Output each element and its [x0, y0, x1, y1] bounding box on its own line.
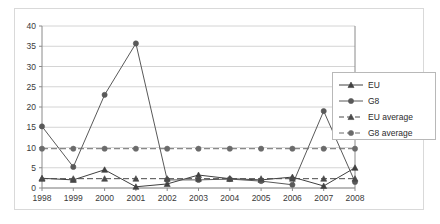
x-tick-label: 2001: [126, 193, 145, 203]
legend-item-label: EU average: [368, 112, 413, 122]
x-tick-label: 2007: [314, 193, 333, 203]
y-tick-label: 40: [27, 21, 37, 31]
x-tick-label: 2003: [189, 193, 208, 203]
y-tick-label: 30: [27, 62, 37, 72]
legend-content: EUG8EU averageG8 average: [333, 73, 435, 139]
line-chart: 0510152025303540 19981999200020012002200…: [0, 0, 440, 224]
x-tick-label: 2008: [346, 193, 365, 203]
x-tick-label: 1998: [33, 193, 52, 203]
y-tick-label: 0: [31, 183, 36, 193]
y-tick-label: 25: [27, 82, 37, 92]
gridlines: [42, 26, 355, 188]
y-tick-label: 5: [31, 163, 36, 173]
legend-item-label: G8 average: [368, 128, 413, 138]
legend-item-label: G8: [368, 96, 380, 106]
y-tick-label: 20: [27, 102, 37, 112]
x-tick-label: 2002: [158, 193, 177, 203]
y-axis-tick-labels: 0510152025303540: [27, 21, 42, 193]
x-tick-label: 2000: [95, 193, 114, 203]
x-tick-label: 1999: [64, 193, 83, 203]
series-g8: [39, 41, 357, 188]
y-tick-label: 15: [27, 122, 37, 132]
chart-legend: EUG8EU averageG8 average: [332, 72, 436, 140]
y-tick-label: 10: [27, 143, 37, 153]
legend-item-label: EU: [368, 80, 380, 90]
x-axis-tick-labels: 1998199920002001200220032004200520062007…: [33, 188, 365, 203]
y-tick-label: 35: [27, 41, 37, 51]
x-tick-label: 2004: [220, 193, 239, 203]
x-tick-label: 2005: [252, 193, 271, 203]
series-eu-average: [39, 176, 358, 182]
series-g8-average: [39, 146, 357, 151]
series-layer: [39, 41, 358, 190]
x-tick-label: 2006: [283, 193, 302, 203]
